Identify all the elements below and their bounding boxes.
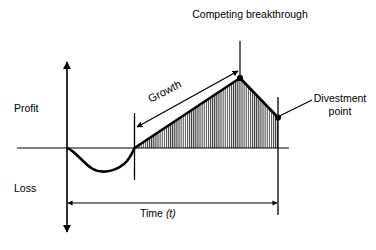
diagram-canvas <box>0 0 376 250</box>
y-axis-label-profit: Profit <box>14 102 39 115</box>
x-axis-label-time: Time (t) <box>140 207 176 220</box>
y-axis-label-loss: Loss <box>14 182 36 195</box>
x-axis-label-time-text: Time <box>140 207 166 219</box>
profit-lifecycle-diagram: Profit Loss Competing breakthrough Dives… <box>0 0 376 250</box>
x-axis-label-time-variable: (t) <box>166 207 176 219</box>
divestment-point-label: Divestment point <box>308 92 372 117</box>
competing-breakthrough-label: Competing breakthrough <box>189 8 311 21</box>
